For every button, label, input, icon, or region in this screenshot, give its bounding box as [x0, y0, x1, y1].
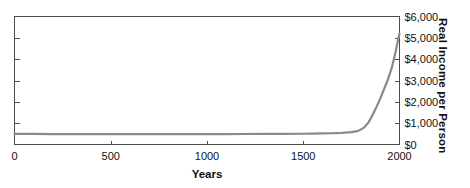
x-axis-ticks [112, 141, 304, 145]
y-tick-label: $1,000 [405, 118, 439, 129]
x-tick-label: 0 [11, 151, 17, 162]
y-tick-label: $3,000 [405, 75, 439, 86]
y-tick-label: $2,000 [405, 96, 439, 107]
y-tick-label: $0 [405, 139, 417, 150]
data-line-series-0 [15, 34, 400, 135]
y-axis-left-ticks [15, 39, 20, 124]
y-tick-label: $4,000 [405, 54, 439, 65]
x-tick-label: 2000 [387, 151, 411, 162]
y-axis-title: Real Income per Person [435, 18, 449, 148]
chart-figure: 0500100015002000 $0$1,000$2,000$3,000$4,… [0, 0, 470, 188]
x-axis-title: Years [192, 168, 223, 180]
x-tick-label: 500 [102, 151, 120, 162]
x-tick-label: 1000 [195, 151, 219, 162]
y-tick-label: $6,000 [405, 11, 439, 22]
x-tick-label: 1500 [291, 151, 315, 162]
y-tick-label: $5,000 [405, 32, 439, 43]
data-series-group [15, 34, 400, 135]
axis-frame [14, 16, 400, 145]
